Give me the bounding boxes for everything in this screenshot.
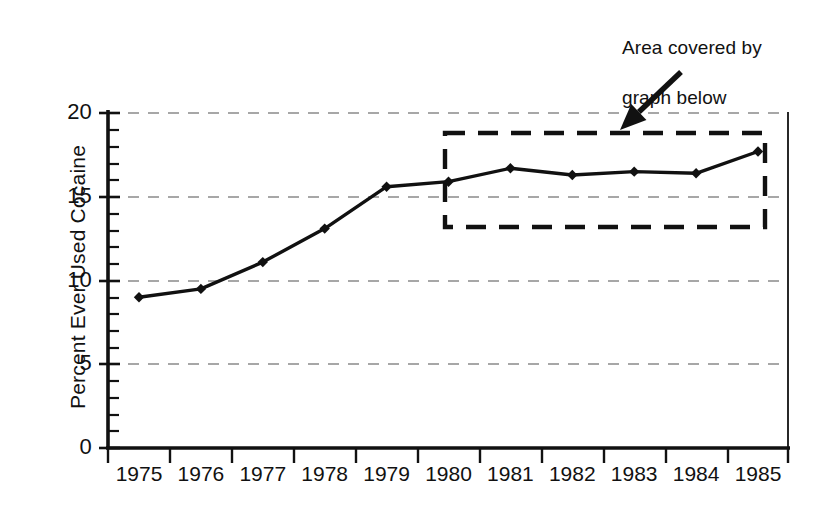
x-tick-label-1983: 1983 [601,462,667,486]
x-tick-label-1984: 1984 [663,462,729,486]
data-point-marker [753,146,763,156]
data-point-marker [134,292,144,302]
data-markers [134,146,763,302]
data-point-marker [196,284,206,294]
x-tick-label-1976: 1976 [168,462,234,486]
data-point-marker [691,168,701,178]
callout-annotation-text: Area covered by graph below [622,10,812,135]
callout-line-1: Area covered by [622,35,812,60]
x-tick-label-1979: 1979 [354,462,420,486]
x-ticks [108,448,788,463]
data-series-line [139,152,758,298]
x-tick-label-1978: 1978 [292,462,358,486]
data-point-marker [567,170,577,180]
data-point-marker [505,163,515,173]
x-tick-label-1975: 1975 [106,462,172,486]
y-tick-label-20: 20 [48,99,92,125]
y-tick-label-10: 10 [48,267,92,293]
gridlines [108,113,788,364]
highlight-box [445,133,765,227]
x-tick-label-1982: 1982 [539,462,605,486]
x-tick-label-1977: 1977 [230,462,296,486]
chart-figure: Percent Ever Used Cocaine 20 15 10 5 0 1… [0,0,817,508]
axes [106,110,790,449]
y-tick-label-0: 0 [48,434,92,460]
data-point-marker [629,166,639,176]
callout-line-2: graph below [622,85,812,110]
x-tick-label-1981: 1981 [477,462,543,486]
y-tick-label-15: 15 [48,183,92,209]
x-tick-label-1985: 1985 [725,462,791,486]
y-tick-label-5: 5 [48,350,92,376]
x-tick-label-1980: 1980 [416,462,482,486]
